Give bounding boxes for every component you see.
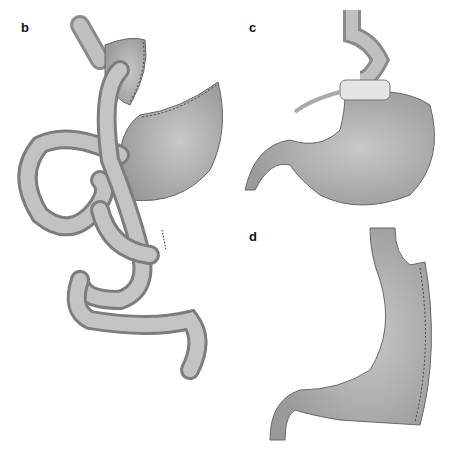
panel-c-band — [245, 10, 435, 205]
panel-d-sleeve — [270, 228, 431, 440]
illustration — [0, 0, 460, 453]
panel-b-bypass — [28, 25, 223, 370]
